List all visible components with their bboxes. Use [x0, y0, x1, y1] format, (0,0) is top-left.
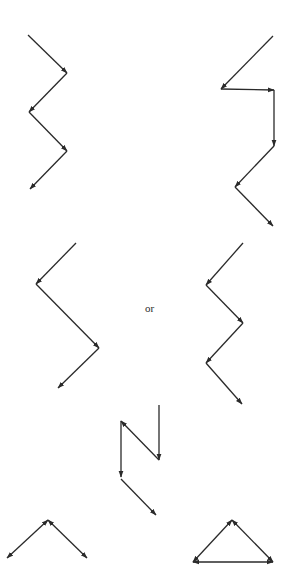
- vector-arrow-icon: [28, 35, 67, 73]
- triangle-bottom-right-figure: [193, 520, 273, 562]
- vector-arrow-icon: [235, 187, 273, 226]
- zigzag-middle-left-figure: [36, 243, 99, 388]
- vector-arrow-icon: [206, 323, 243, 363]
- vector-arrow-icon: [221, 36, 273, 89]
- zigzag-middle-right-figure: [206, 243, 243, 404]
- zigzag-top-left-figure: [28, 35, 67, 189]
- vector-arrow-icon: [221, 89, 274, 90]
- vector-arrow-icon: [36, 243, 76, 284]
- or-label: or: [145, 302, 155, 314]
- vector-diagram-canvas: or: [0, 0, 294, 582]
- double-arrow-icon: [7, 520, 48, 558]
- double-arrow-icon: [193, 520, 232, 562]
- vector-arrow-icon: [36, 284, 99, 348]
- caret-bottom-left-figure: [7, 520, 87, 558]
- zigzag-top-right-figure: [221, 36, 274, 226]
- vector-arrow-icon: [121, 421, 159, 460]
- vector-arrow-icon: [30, 151, 67, 189]
- vector-figures-group: [7, 35, 274, 562]
- n-shape-middle-bottom-figure: [121, 405, 159, 515]
- vector-arrow-icon: [206, 285, 243, 323]
- vector-arrow-icon: [29, 73, 67, 112]
- vector-arrow-icon: [206, 363, 242, 404]
- double-arrow-icon: [48, 520, 87, 558]
- vector-arrow-icon: [206, 243, 243, 285]
- vector-arrow-icon: [58, 348, 99, 388]
- double-arrow-icon: [232, 520, 273, 562]
- vector-arrow-icon: [29, 112, 67, 151]
- vector-arrow-icon: [235, 146, 274, 187]
- vector-arrow-icon: [121, 479, 156, 515]
